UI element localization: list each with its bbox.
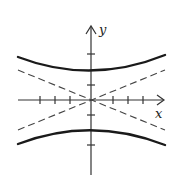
y-axis-label: y [98,22,107,37]
x-axis-label: x [155,106,163,121]
hyperbola-graph: y x [0,0,177,180]
